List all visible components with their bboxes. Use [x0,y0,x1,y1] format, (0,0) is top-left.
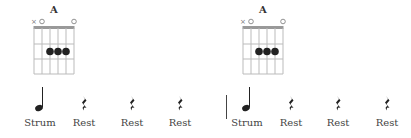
beat-label: Rest [365,117,409,128]
beat-2: Rest [62,84,106,114]
beat-1: Strum [225,84,269,114]
half-note-icon [30,84,50,114]
beat-2: Rest [269,84,313,114]
beat-label: Rest [316,117,360,128]
quarter-rest-icon [328,84,348,114]
beat-3: Rest [110,84,154,114]
fretboard-icon: × [24,14,84,78]
fretboard-icon: × [233,14,293,78]
quarter-rest-icon [122,84,142,114]
svg-text:×: × [240,18,246,26]
beat-1: Strum [18,84,62,114]
beat-label: Rest [158,117,202,128]
beat-4: Rest [158,84,202,114]
beat-3: Rest [316,84,360,114]
quarter-rest-icon [74,84,94,114]
beat-label: Strum [18,117,62,128]
beat-4: Rest [365,84,409,114]
measure-1: A × [0,0,205,138]
quarter-rest-icon [377,84,397,114]
half-note-icon [237,84,257,114]
beat-label: Strum [225,117,269,128]
beat-label: Rest [110,117,154,128]
measure-2: A × Strum [205,0,411,138]
beat-label: Rest [269,117,313,128]
quarter-rest-icon [281,84,301,114]
svg-text:×: × [31,18,37,26]
beat-label: Rest [62,117,106,128]
quarter-rest-icon [170,84,190,114]
